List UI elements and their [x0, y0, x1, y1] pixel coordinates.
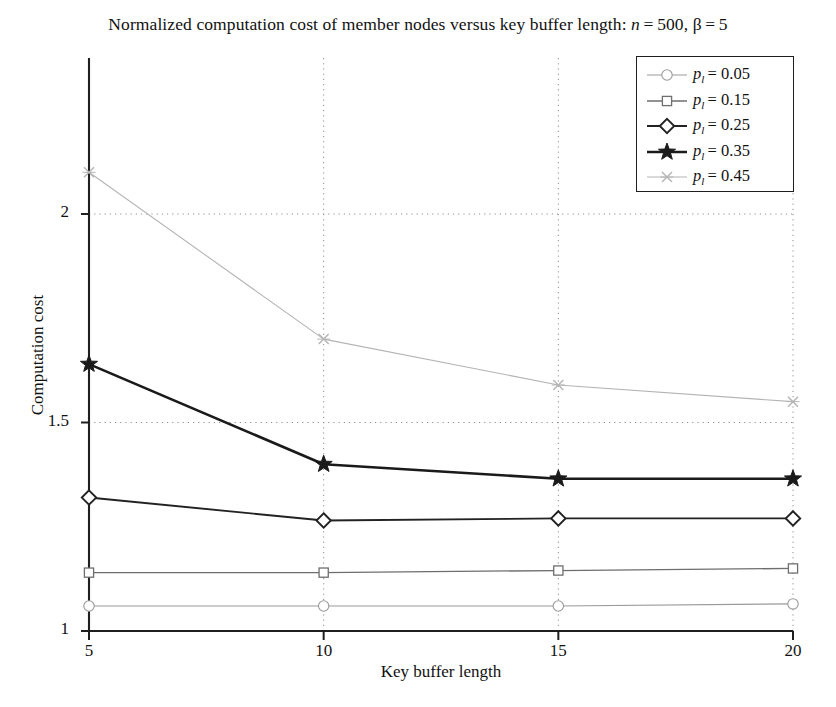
y-tick-label-1: 1 [9, 619, 69, 639]
series-3 [80, 355, 801, 486]
legend-item-0[interactable]: pl = 0.05 [637, 62, 795, 88]
axis-ticks [81, 214, 793, 640]
legend-marker-circle-icon [645, 64, 689, 86]
figure-container: Normalized computation cost of member no… [0, 0, 836, 707]
legend-marker-square-icon [645, 90, 689, 112]
legend-marker-star-icon [645, 141, 689, 163]
legend-label-4: pl = 0.45 [693, 166, 750, 187]
x-tick-label-20: 20 [763, 641, 823, 661]
legend-item-1[interactable]: pl = 0.15 [637, 88, 795, 114]
legend-item-2[interactable]: pl = 0.25 [637, 113, 795, 139]
x-tick-label-10: 10 [294, 641, 354, 661]
legend-item-3[interactable]: pl = 0.35 [637, 139, 795, 165]
x-tick-label-15: 15 [528, 641, 588, 661]
legend-label-0: pl = 0.05 [693, 64, 750, 85]
data-series-layer [80, 167, 801, 611]
legend: pl = 0.05pl = 0.15pl = 0.25pl = 0.35pl =… [636, 56, 794, 192]
series-0 [84, 599, 798, 611]
x-tick-label-5: 5 [59, 641, 119, 661]
y-tick-label-1.5: 1.5 [9, 411, 69, 431]
legend-item-4[interactable]: pl = 0.45 [637, 164, 795, 190]
series-2 [82, 490, 800, 527]
legend-label-1: pl = 0.15 [693, 90, 750, 111]
y-tick-label-2: 2 [9, 202, 69, 222]
legend-marker-x-icon [645, 166, 689, 188]
series-4 [83, 167, 800, 406]
legend-marker-diamond-icon [645, 115, 689, 137]
legend-label-3: pl = 0.35 [693, 141, 750, 162]
series-1 [84, 564, 797, 577]
legend-label-2: pl = 0.25 [693, 115, 750, 136]
